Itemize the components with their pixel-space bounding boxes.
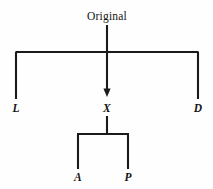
node-label-a: A: [74, 172, 82, 184]
tree-edges-svg: [0, 0, 213, 189]
arrowhead-icon: [103, 89, 110, 98]
tree-diagram-figure: Original L X D A P: [0, 0, 213, 189]
node-label-p: P: [124, 172, 131, 184]
node-label-l: L: [12, 103, 19, 115]
node-label-d: D: [194, 103, 203, 115]
node-label-x: X: [103, 103, 111, 115]
node-label-original: Original: [87, 11, 127, 23]
